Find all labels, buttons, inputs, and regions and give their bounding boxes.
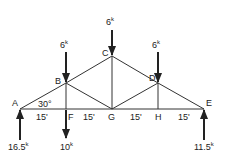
reaction-label-A: 16.5k xyxy=(8,141,30,152)
member-BG xyxy=(66,83,112,109)
reaction-label-E: 11.5k xyxy=(194,141,215,152)
node-label-G: G xyxy=(108,112,115,122)
node-label-D: D xyxy=(149,73,156,83)
node-label-A: A xyxy=(12,98,18,108)
load-label-F: 10k xyxy=(60,141,74,152)
node-label-B: B xyxy=(55,76,61,86)
member-DE xyxy=(158,83,204,109)
node-label-F: F xyxy=(68,112,74,122)
member-BC xyxy=(66,56,112,83)
node-label-C: C xyxy=(102,48,109,58)
span-label: 15' xyxy=(36,112,48,122)
angle-label: 30° xyxy=(38,99,52,109)
span-label: 15' xyxy=(83,112,95,122)
node-label-E: E xyxy=(206,98,212,108)
span-label: 15' xyxy=(130,112,142,122)
load-label-C: 6k xyxy=(106,16,115,27)
member-DG xyxy=(112,83,158,109)
load-label-B: 6k xyxy=(60,39,69,50)
truss-diagram: ABCDEFGH30°15'15'15'15'6k6k6k10k16.5k11.… xyxy=(0,0,228,163)
node-label-H: H xyxy=(155,112,162,122)
load-label-D: 6k xyxy=(152,39,161,50)
span-label: 15' xyxy=(178,112,190,122)
